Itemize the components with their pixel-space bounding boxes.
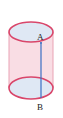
label-a: A	[37, 32, 44, 42]
cylinder-diagram: A B	[0, 0, 63, 118]
bottom-base-ellipse	[9, 77, 53, 99]
label-b: B	[37, 102, 43, 112]
top-base-ellipse	[9, 22, 53, 42]
